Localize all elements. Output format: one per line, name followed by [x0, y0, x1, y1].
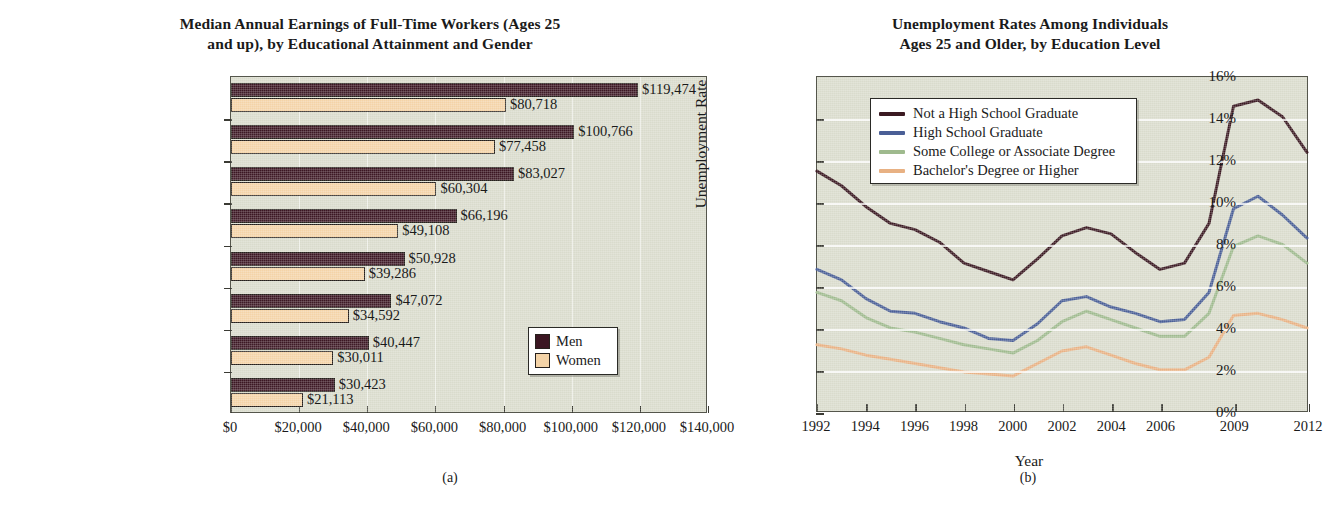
bar-chart-panel: Median Annual Earnings of Full-Time Work… — [0, 0, 730, 510]
y-axis-tick — [224, 372, 232, 373]
x-axis-tick-label: $40,000 — [343, 419, 390, 436]
bar-value-label: $21,113 — [307, 390, 354, 407]
x-axis-tick-label: 2006 — [1146, 418, 1175, 435]
bar-value-label: $49,108 — [402, 222, 449, 239]
x-axis-tick — [1014, 404, 1015, 412]
x-axis-tick-label: 2009 — [1220, 418, 1249, 435]
y-axis-tick — [816, 287, 824, 289]
x-axis-tick-label: 1996 — [900, 418, 929, 435]
y-axis-tick — [816, 161, 824, 163]
legend-line-swatch-icon — [879, 112, 905, 116]
bar-women — [231, 140, 495, 154]
bar-women — [231, 182, 436, 196]
x-axis-tick-label: $120,000 — [612, 419, 666, 436]
y-axis-tick — [816, 413, 824, 415]
bar-chart-title-line1: Median Annual Earnings of Full-Time Work… — [180, 15, 561, 32]
x-axis-title: Year — [730, 452, 1328, 470]
bar-value-label: $66,196 — [461, 207, 508, 224]
x-axis-tick-label: 2004 — [1097, 418, 1126, 435]
bar-women — [231, 393, 303, 407]
x-axis-tick — [915, 404, 916, 412]
legend-label-women: Women — [556, 352, 601, 369]
y-axis-tick — [224, 330, 232, 331]
bar-value-label: $80,718 — [510, 96, 557, 113]
y-axis-tick — [224, 161, 232, 162]
bar-men — [231, 83, 638, 97]
legend-label: Bachelor's Degree or Higher — [913, 162, 1079, 179]
legend-item-women: Women — [535, 351, 611, 370]
x-axis-tick — [640, 406, 641, 413]
x-axis-tick — [965, 404, 966, 412]
panel-a-letter: (a) — [420, 470, 480, 486]
bar-chart-legend: Men Women — [528, 327, 618, 375]
y-axis-tick-label: 12% — [1209, 152, 1237, 169]
panel-b-letter: (b) — [998, 470, 1058, 486]
y-axis-tick — [224, 246, 232, 247]
legend-label: Some College or Associate Degree — [913, 143, 1115, 160]
bar-value-label: $60,304 — [440, 180, 487, 197]
y-axis-title: Unemployment Rate — [692, 44, 710, 244]
legend-item-men: Men — [535, 332, 611, 351]
x-axis-tick — [435, 406, 436, 413]
x-axis-tick-label: 2002 — [1048, 418, 1077, 435]
y-axis-tick-label: 4% — [1216, 320, 1236, 337]
x-axis-tick — [1063, 404, 1064, 412]
x-axis-tick — [708, 406, 709, 413]
bar-value-label: $83,027 — [518, 165, 565, 182]
x-axis-tick-label: 1998 — [949, 418, 978, 435]
y-axis-tick-label: 10% — [1209, 194, 1237, 211]
x-axis-tick-label: $60,000 — [411, 419, 458, 436]
y-axis-tick — [816, 119, 824, 121]
x-axis-tick-label: $0 — [223, 419, 238, 436]
legend-label: Not a High School Graduate — [913, 105, 1078, 122]
bar-chart-title-line2: and up), by Educational Attainment and G… — [207, 35, 532, 52]
y-axis-tick — [224, 288, 232, 289]
line-chart-legend: Not a High School GraduateHigh School Gr… — [870, 98, 1137, 184]
bar-women — [231, 267, 365, 281]
y-axis-tick-label: 8% — [1216, 236, 1236, 253]
x-axis-tick-label: 1994 — [851, 418, 880, 435]
legend-item: Bachelor's Degree or Higher — [879, 161, 1128, 180]
bar-women — [231, 224, 398, 238]
y-axis-tick — [816, 371, 824, 373]
legend-item: Some College or Associate Degree — [879, 142, 1128, 161]
line-chart-title-line2: Ages 25 and Older, by Education Level — [899, 35, 1160, 52]
x-gridline — [640, 77, 641, 412]
bar-women — [231, 309, 349, 323]
legend-label: High School Graduate — [913, 124, 1043, 141]
x-axis-tick-label: $20,000 — [275, 419, 322, 436]
x-axis-tick — [1112, 404, 1113, 412]
x-axis-tick — [1309, 404, 1310, 412]
x-axis-tick-label: $80,000 — [479, 419, 526, 436]
x-axis-tick-label: $100,000 — [544, 419, 598, 436]
x-axis-tick — [504, 406, 505, 413]
line-chart-title-line1: Unemployment Rates Among Individuals — [892, 15, 1168, 32]
legend-line-swatch-icon — [879, 169, 905, 173]
x-axis-tick — [1161, 404, 1162, 412]
legend-item: Not a High School Graduate — [879, 104, 1128, 123]
y-axis-tick — [224, 119, 232, 120]
legend-line-swatch-icon — [879, 150, 905, 154]
y-axis-tick — [816, 329, 824, 331]
bar-value-label: $119,474 — [642, 81, 696, 98]
x-axis-tick — [299, 406, 300, 413]
bar-value-label: $30,011 — [337, 348, 384, 365]
y-axis-tick-label: 16% — [1209, 68, 1237, 85]
bar-value-label: $77,458 — [499, 138, 546, 155]
x-axis-tick — [866, 404, 867, 412]
x-axis-tick — [817, 404, 818, 412]
figure-container: Median Annual Earnings of Full-Time Work… — [0, 0, 1328, 510]
x-axis-tick-label: 1992 — [802, 418, 831, 435]
line-chart-panel: Unemployment Rates Among Individuals Age… — [730, 0, 1328, 510]
y-axis-tick — [224, 203, 232, 204]
x-axis-tick — [572, 406, 573, 413]
bar-women — [231, 351, 333, 365]
legend-line-swatch-icon — [879, 131, 905, 135]
bar-women — [231, 98, 506, 112]
x-axis-tick-label: 2012 — [1294, 418, 1323, 435]
bar-value-label: $47,072 — [395, 291, 442, 308]
line-chart-title: Unemployment Rates Among Individuals Age… — [780, 14, 1280, 54]
bar-value-label: $100,766 — [578, 123, 632, 140]
legend-item: High School Graduate — [879, 123, 1128, 142]
legend-label-men: Men — [556, 333, 583, 350]
